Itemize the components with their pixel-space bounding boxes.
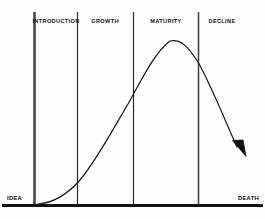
stage-label-introduction: INTRODUCTION [32,19,79,25]
lifecycle-chart-canvas [0,0,265,219]
stage-label-maturity: MATURITY [150,19,181,25]
lifecycle-curve [38,41,237,204]
curve-arrowhead-icon [233,140,247,157]
endpoint-label-idea: IDEA [7,196,22,202]
product-lifecycle-diagram: INTRODUCTION GROWTH MATURITY DECLINE IDE… [0,0,265,219]
stage-label-decline: DECLINE [208,19,235,25]
stage-label-growth: GROWTH [91,19,119,25]
endpoint-label-death: DEATH [238,196,259,202]
